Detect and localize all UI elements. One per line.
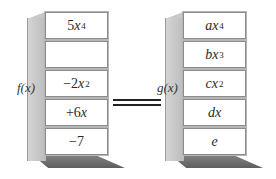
- g-term-box-const: e: [183, 128, 246, 155]
- term-coef: −2: [63, 76, 78, 92]
- g-term-boxes: ax4 bx3 cx2 dx e: [183, 12, 246, 157]
- term-var: x: [212, 76, 218, 92]
- g-term-box-x1: dx: [183, 99, 246, 126]
- term-var: x: [215, 105, 221, 121]
- term-coef: +6: [66, 105, 81, 121]
- term-exp: 3: [219, 50, 224, 60]
- f-term-box-x1: +6x: [45, 99, 108, 126]
- term-exp: 2: [85, 79, 90, 89]
- term-var: x: [212, 18, 218, 34]
- f-label: f(x): [17, 80, 35, 96]
- f-term-box-x3-empty: [45, 41, 108, 68]
- g-term-box-x2: cx2: [183, 70, 246, 97]
- term-coef: e: [211, 134, 217, 150]
- g-term-box-x3: bx3: [183, 41, 246, 68]
- term-var: x: [74, 18, 80, 34]
- g-label: g(x): [157, 80, 178, 96]
- term-var: x: [81, 105, 87, 121]
- equals-bar-bottom: [113, 104, 161, 106]
- term-var: x: [78, 76, 84, 92]
- term-exp: 4: [81, 21, 86, 31]
- g-stack: ax4 bx3 cx2 dx e: [165, 12, 265, 177]
- equals-sign: [113, 99, 161, 107]
- f-stack: 5x4 −2x2 +6x −7: [27, 12, 127, 177]
- term-exp: 2: [219, 79, 224, 89]
- equals-bar-top: [113, 99, 161, 101]
- f-term-box-const: −7: [45, 128, 108, 155]
- term-coef: −7: [69, 134, 84, 150]
- f-term-boxes: 5x4 −2x2 +6x −7: [45, 12, 108, 157]
- term-coef: d: [208, 105, 215, 121]
- term-var: x: [212, 47, 218, 63]
- g-term-box-x4: ax4: [183, 12, 246, 39]
- term-exp: 4: [219, 21, 224, 31]
- f-term-box-x2: −2x2: [45, 70, 108, 97]
- f-term-box-x4: 5x4: [45, 12, 108, 39]
